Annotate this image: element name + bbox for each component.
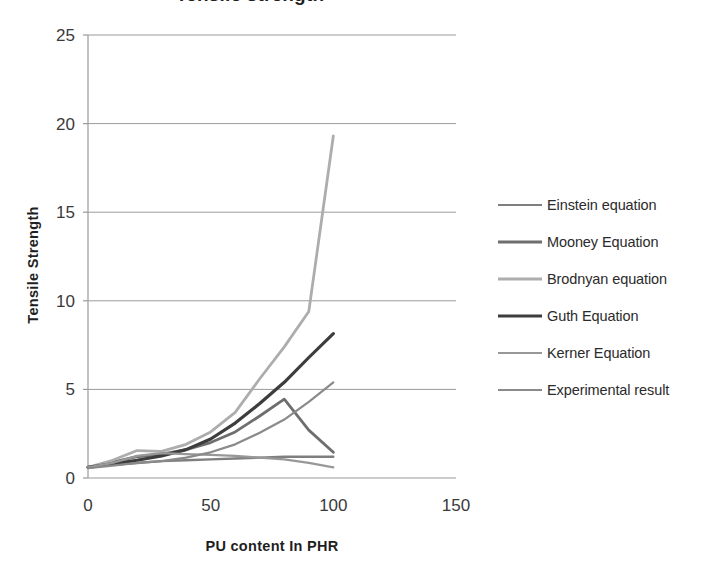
legend-item[interactable]: Guth Equation — [498, 297, 713, 334]
svg-text:0: 0 — [83, 496, 92, 515]
legend-label: Brodnyan equation — [547, 271, 667, 287]
svg-text:25: 25 — [56, 26, 75, 45]
legend-label: Guth Equation — [547, 308, 638, 324]
series-line — [88, 334, 333, 468]
gridlines-group — [83, 35, 456, 478]
svg-text:20: 20 — [56, 115, 75, 134]
chart-container: Tensile strength 0510152025 050100150 Te… — [0, 0, 717, 574]
y-axis-title: Tensile Strength — [25, 206, 41, 323]
svg-text:10: 10 — [56, 292, 75, 311]
svg-text:50: 50 — [201, 496, 220, 515]
legend-item[interactable]: Brodnyan equation — [498, 260, 713, 297]
legend-item[interactable]: Kerner Equation — [498, 334, 713, 371]
series-line — [88, 136, 333, 467]
legend-label: Experimental result — [547, 382, 669, 398]
svg-text:150: 150 — [442, 496, 470, 515]
svg-text:100: 100 — [319, 496, 347, 515]
legend-item[interactable]: Mooney Equation — [498, 223, 713, 260]
chart-legend: Einstein equation Mooney Equation Brodny… — [498, 186, 713, 408]
x-axis-tick-labels: 050100150 — [83, 496, 470, 515]
legend-item[interactable]: Experimental result — [498, 371, 713, 408]
legend-label: Mooney Equation — [547, 234, 658, 250]
series-lines-group — [88, 136, 333, 468]
x-axis-title: PU content In PHR — [205, 538, 338, 554]
legend-swatch-mooney-icon — [498, 236, 542, 248]
legend-item[interactable]: Einstein equation — [498, 186, 713, 223]
legend-swatch-experimental-icon — [498, 384, 542, 396]
legend-swatch-kerner-icon — [498, 347, 542, 359]
y-axis-tick-labels: 0510152025 — [56, 26, 75, 488]
svg-text:5: 5 — [66, 380, 75, 399]
legend-swatch-guth-icon — [498, 310, 542, 322]
svg-text:0: 0 — [66, 469, 75, 488]
svg-text:15: 15 — [56, 203, 75, 222]
legend-swatch-einstein-icon — [498, 199, 542, 211]
legend-label: Kerner Equation — [547, 345, 650, 361]
legend-swatch-brodnyan-icon — [498, 273, 542, 285]
legend-label: Einstein equation — [547, 197, 657, 213]
